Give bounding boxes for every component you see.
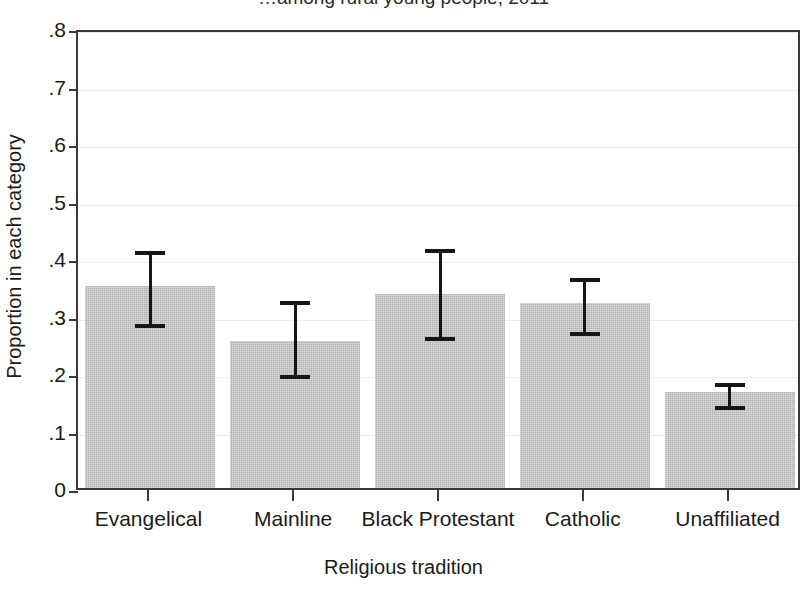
y-axis-tick <box>69 261 78 263</box>
y-axis-tick <box>69 146 78 148</box>
x-axis-tick-label-catholic: Catholic <box>545 507 621 531</box>
error-bar-cap-upper <box>135 251 165 255</box>
chart-title: …among rural young people, 2011 <box>0 0 807 9</box>
y-axis-tick-label: .6 <box>8 134 66 155</box>
error-bar-cap-lower <box>135 324 165 328</box>
x-axis: EvangelicalMainlineBlack ProtestantCatho… <box>76 490 800 550</box>
error-bar-stem <box>439 249 442 341</box>
y-axis-tick-label: .1 <box>8 422 66 443</box>
error-bar-cap-upper <box>425 249 455 253</box>
x-axis-tick <box>582 490 584 501</box>
error-bar-evangelical <box>135 251 165 328</box>
gridline <box>78 205 798 206</box>
y-axis-tick <box>69 434 78 436</box>
y-axis-tick-label: .5 <box>8 192 66 213</box>
x-axis-tick <box>437 490 439 501</box>
y-axis-tick <box>69 319 78 321</box>
y-axis-tick-label: .8 <box>8 19 66 40</box>
x-axis-title: Religious tradition <box>0 556 807 579</box>
error-bar-unaffiliated <box>715 383 745 411</box>
plot-area <box>76 30 800 490</box>
error-bar-catholic <box>570 278 600 336</box>
y-axis-tick-label: .2 <box>8 364 66 385</box>
x-axis-tick-label-unaffiliated: Unaffiliated <box>675 507 780 531</box>
gridline <box>78 147 798 148</box>
error-bar-stem <box>583 278 586 336</box>
x-axis-tick <box>292 490 294 501</box>
y-axis-tick <box>69 376 78 378</box>
y-axis-tick-label: 0 <box>8 479 66 500</box>
x-axis-tick <box>147 490 149 501</box>
error-bar-cap-lower <box>715 406 745 410</box>
gridline <box>78 90 798 91</box>
error-bar-mainline <box>280 301 310 379</box>
error-bar-cap-lower <box>425 337 455 341</box>
error-bar-cap-upper <box>715 383 745 387</box>
error-bar-stem <box>149 251 152 328</box>
y-axis-tick <box>69 204 78 206</box>
x-axis-tick-label-black-protestant: Black Protestant <box>362 507 515 531</box>
x-axis-tick-label-mainline: Mainline <box>254 507 332 531</box>
x-axis-tick <box>727 490 729 501</box>
x-axis-tick-label-evangelical: Evangelical <box>95 507 202 531</box>
y-axis-tick <box>69 89 78 91</box>
error-bar-cap-lower <box>570 332 600 336</box>
gridline <box>78 32 798 33</box>
y-axis-tick-label: .7 <box>8 77 66 98</box>
error-bar-cap-upper <box>280 301 310 305</box>
error-bar-cap-lower <box>280 375 310 379</box>
y-axis-tick-label: .3 <box>8 307 66 328</box>
y-axis-tick-label: .4 <box>8 249 66 270</box>
error-bar-black-protestant <box>425 249 455 341</box>
error-bar-cap-upper <box>570 278 600 282</box>
y-axis-tick <box>69 31 78 33</box>
error-bar-stem <box>294 301 297 379</box>
y-axis-tick-labels: 0.1.2.3.4.5.6.7.8 <box>0 30 66 490</box>
bar-chart-figure: …among rural young people, 2011 Proporti… <box>0 0 807 591</box>
